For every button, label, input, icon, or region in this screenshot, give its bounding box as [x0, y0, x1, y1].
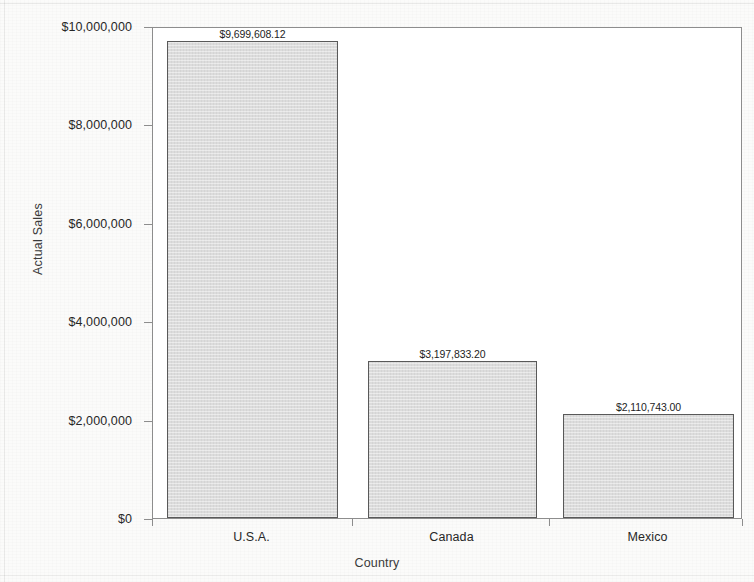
y-axis-tick-label: $2,000,000	[12, 414, 132, 428]
y-axis-tick-mark	[144, 421, 152, 422]
bar-value-label: $2,110,743.00	[616, 401, 681, 413]
x-axis-tick-label: Mexico	[627, 530, 667, 544]
y-axis-tick-mark	[144, 125, 152, 126]
scan-edge-bottom	[0, 575, 754, 576]
y-axis-tick-label: $0	[12, 512, 132, 526]
y-axis-tick-mark	[144, 224, 152, 225]
bar-value-label: $3,197,833.20	[420, 348, 486, 360]
x-axis-tick-mark	[352, 519, 353, 526]
x-axis-tick-label: Canada	[429, 530, 473, 544]
scan-edge-top	[0, 3, 754, 4]
x-axis-tick-mark	[152, 519, 153, 526]
scan-edge-left	[4, 0, 5, 582]
y-axis-tick-mark	[144, 27, 152, 28]
bar	[563, 414, 734, 518]
y-axis-tick-mark	[144, 519, 152, 520]
y-axis-tick-label: $8,000,000	[12, 118, 132, 132]
bar	[167, 41, 338, 518]
y-axis-tick-label: $10,000,000	[12, 20, 132, 34]
x-axis-tick-mark	[549, 519, 550, 526]
x-axis-title: Country	[0, 556, 754, 570]
bar-value-label: $9,699,608.12	[220, 28, 286, 40]
y-axis-tick-label: $6,000,000	[12, 217, 132, 231]
plot-area: $9,699,608.12$3,197,833.20$2,110,743.00	[152, 27, 742, 519]
y-axis-tick-mark	[144, 322, 152, 323]
y-axis-tick-label: $4,000,000	[12, 315, 132, 329]
x-axis-tick-label: U.S.A.	[233, 530, 270, 544]
y-axis-title: Actual Sales	[31, 179, 45, 299]
bar-chart-figure: Actual Sales $0$2,000,000$4,000,000$6,00…	[0, 0, 754, 582]
x-axis-tick-mark	[742, 519, 743, 526]
bar	[368, 361, 537, 518]
